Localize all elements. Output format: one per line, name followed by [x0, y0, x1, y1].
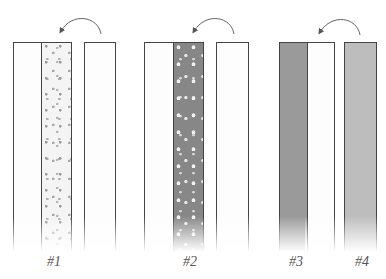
group-3-dark-strip — [279, 42, 308, 256]
group-2-right-strip — [216, 42, 249, 256]
group-4-label: #4 — [355, 254, 369, 270]
arrow-icon-group-3 — [320, 20, 360, 35]
group-2-print-strip — [173, 42, 204, 256]
arrow-icon-group-1 — [61, 19, 101, 34]
arrow-icon-group-2 — [194, 19, 234, 34]
group-3-plain-strip — [307, 42, 335, 256]
group-1-label: #1 — [47, 254, 61, 270]
group-1-print-strip — [41, 42, 72, 256]
group-2-label: #2 — [183, 254, 197, 270]
group-1-right-strip — [84, 42, 116, 256]
group-3-label: #3 — [289, 254, 303, 270]
group-4-gray-strip — [344, 42, 377, 256]
